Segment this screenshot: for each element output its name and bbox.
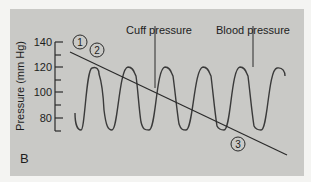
blood-pressure-label: Blood pressure — [216, 24, 290, 36]
panel-label: B — [20, 151, 29, 166]
marker-1: 1 — [73, 35, 87, 49]
y-tick-labels: 140 120 100 80 — [34, 36, 52, 124]
cuff-pressure-label: Cuff pressure — [126, 24, 192, 36]
cuff-pressure-line — [70, 52, 287, 155]
y-tick-140: 140 — [34, 36, 52, 48]
y-tick-120: 120 — [34, 61, 52, 73]
y-axis — [55, 42, 63, 131]
blood-pressure-wave — [75, 67, 285, 130]
y-tick-80: 80 — [40, 112, 52, 124]
y-tick-100: 100 — [34, 86, 52, 98]
y-axis-label: Pressure (mm Hg) — [14, 41, 26, 131]
svg-text:1: 1 — [77, 37, 83, 48]
bp-chart: 140 120 100 80 Pressure (mm Hg) Cuff pre… — [0, 0, 311, 182]
marker-2: 2 — [90, 43, 104, 57]
svg-text:2: 2 — [94, 45, 100, 56]
svg-text:3: 3 — [235, 139, 241, 150]
marker-3: 3 — [231, 137, 245, 151]
